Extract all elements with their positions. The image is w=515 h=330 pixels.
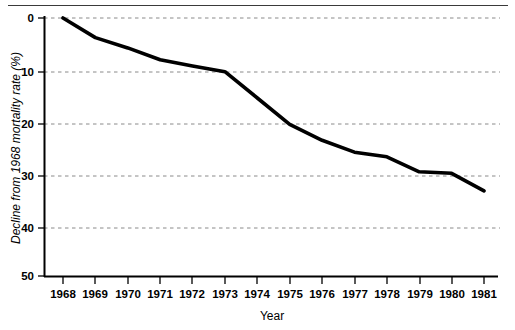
- x-tick-label-1980: 1980: [439, 288, 465, 300]
- data-line-series: [63, 18, 484, 191]
- x-tick-label-1972: 1972: [179, 288, 205, 300]
- y-tick-label-50: 50: [21, 270, 34, 282]
- x-tick-label-1971: 1971: [147, 288, 173, 300]
- y-axis-ticks: [38, 18, 44, 276]
- y-tick-label-20: 20: [21, 118, 34, 130]
- x-tick-label-1970: 1970: [115, 288, 141, 300]
- y-tick-label-0: 0: [28, 12, 34, 24]
- axes: [44, 16, 498, 277]
- x-tick-label-1974: 1974: [244, 288, 270, 300]
- x-axis-tick-labels: 1968 1969 1970 1971 1972 1973 1974 1975 …: [50, 288, 497, 300]
- x-axis-title: Year: [260, 309, 284, 323]
- x-tick-label-1975: 1975: [277, 288, 303, 300]
- y-tick-label-10: 10: [21, 66, 34, 78]
- x-tick-label-1978: 1978: [374, 288, 400, 300]
- figure-root: 0 10 20 30 40 50 1968 1969 1970 1971 197…: [0, 0, 515, 330]
- gridlines: [44, 18, 500, 228]
- line-chart: 0 10 20 30 40 50 1968 1969 1970 1971 197…: [0, 0, 515, 330]
- y-axis-tick-labels: 0 10 20 30 40 50: [21, 12, 34, 282]
- x-tick-label-1979: 1979: [407, 288, 433, 300]
- x-tick-label-1977: 1977: [342, 288, 368, 300]
- x-tick-label-1973: 1973: [212, 288, 238, 300]
- x-tick-label-1969: 1969: [82, 288, 108, 300]
- x-axis-ticks: [63, 277, 484, 284]
- y-tick-label-30: 30: [21, 170, 34, 182]
- x-tick-label-1981: 1981: [471, 288, 497, 300]
- y-axis-title: Decline from 1968 mortality rate (%): [9, 52, 23, 244]
- x-tick-label-1968: 1968: [50, 288, 76, 300]
- x-tick-label-1976: 1976: [309, 288, 335, 300]
- y-tick-label-40: 40: [21, 222, 34, 234]
